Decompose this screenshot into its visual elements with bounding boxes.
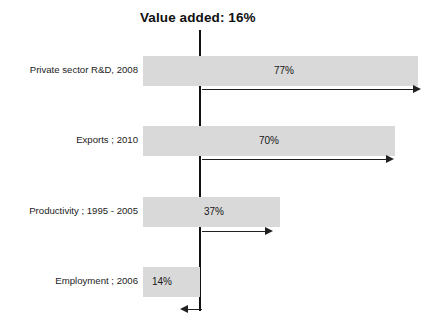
arrow-head-right-icon: [413, 85, 421, 93]
arrow-shaft: [187, 309, 202, 310]
bar-value-productivity: 37%: [204, 207, 224, 217]
row-label-productivity: Productivity ; 1995 - 2005: [0, 206, 138, 216]
chart-title: Value added: 16%: [140, 10, 256, 25]
arrow-productivity: [202, 226, 277, 238]
bar-value-employment: 14%: [152, 277, 172, 287]
arrow-head-right-icon: [265, 227, 273, 235]
arrow-head-right-icon: [386, 155, 394, 163]
arrow-private-sector-rd: [202, 84, 422, 96]
bar-value-exports: 70%: [259, 136, 279, 146]
arrow-head-left-icon: [180, 305, 188, 313]
arrow-exports: [202, 154, 397, 166]
row-label-private-sector-rd: Private sector R&D, 2008: [0, 65, 138, 75]
arrow-shaft: [202, 89, 414, 90]
bar-chart: Value added: 16% Private sector R&D, 200…: [0, 0, 438, 328]
row-label-exports: Exports ; 2010: [0, 135, 138, 145]
bar-value-private-sector-rd: 77%: [274, 66, 294, 76]
arrow-shaft: [202, 231, 266, 232]
arrow-shaft: [202, 159, 387, 160]
arrow-employment: [180, 304, 204, 316]
row-label-employment: Employment ; 2006: [0, 276, 138, 286]
